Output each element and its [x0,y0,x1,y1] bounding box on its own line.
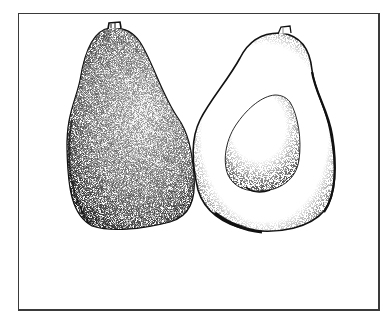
halved-avocado [190,26,340,238]
avocado-illustration [0,0,383,312]
whole-avocado [60,22,200,235]
whole-avocado-stem [108,22,121,29]
halved-avocado-stem [278,26,291,34]
